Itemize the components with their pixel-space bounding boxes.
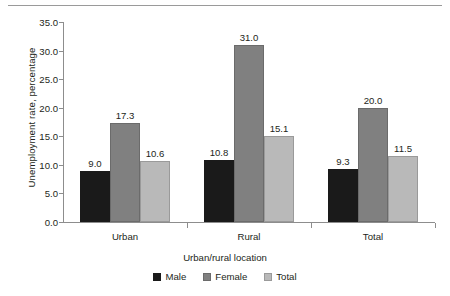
legend-swatch-icon — [264, 273, 272, 281]
bar-value-label: 11.5 — [394, 143, 412, 154]
legend-item-female[interactable]: Female — [203, 271, 247, 282]
legend-label: Total — [276, 271, 296, 282]
bar-urban-female — [110, 123, 140, 222]
top-divider-rule — [8, 5, 442, 6]
bar-value-label: 17.3 — [116, 110, 135, 121]
y-tick-label: 35.0 — [0, 17, 58, 28]
legend-label: Female — [215, 271, 247, 282]
bar-value-label: 20.0 — [364, 95, 383, 106]
y-tick-label: 10.0 — [0, 159, 58, 170]
bar-value-label: 10.6 — [146, 148, 165, 159]
bar-value-label: 9.3 — [336, 156, 349, 167]
y-tick-label: 0.0 — [0, 217, 58, 228]
bar-value-label: 15.1 — [270, 123, 289, 134]
y-tick-label: 20.0 — [0, 102, 58, 113]
y-tick-label: 5.0 — [0, 188, 58, 199]
bar-urban-male — [80, 171, 110, 222]
bar-total-total — [388, 156, 418, 222]
x-axis-line — [63, 222, 435, 223]
chart-legend: MaleFemaleTotal — [0, 271, 450, 282]
bar-rural-total — [264, 136, 294, 222]
x-category-label-total: Total — [363, 231, 383, 242]
x-tick-mark — [435, 223, 436, 228]
bar-rural-male — [204, 160, 234, 222]
bar-value-label: 10.8 — [210, 147, 229, 158]
y-tick-label: 15.0 — [0, 131, 58, 142]
legend-swatch-icon — [153, 273, 161, 281]
bar-value-label: 31.0 — [240, 32, 259, 43]
x-tick-mark — [311, 223, 312, 228]
bar-urban-total — [140, 161, 170, 222]
x-category-label-rural: Rural — [238, 231, 261, 242]
chart-figure: Unemployment rate, percentage 35.030.025… — [0, 0, 450, 296]
bar-rural-female — [234, 45, 264, 222]
y-tick-label: 30.0 — [0, 45, 58, 56]
legend-item-total[interactable]: Total — [264, 271, 296, 282]
x-category-label-urban: Urban — [112, 231, 138, 242]
x-axis-title: Urban/rural location — [0, 252, 450, 263]
bar-total-male — [328, 169, 358, 222]
y-tick-mark — [59, 222, 64, 223]
legend-item-male[interactable]: Male — [153, 271, 186, 282]
plot-area: 9.017.310.610.831.015.19.320.011.5 — [63, 22, 435, 222]
bar-total-female — [358, 108, 388, 222]
y-tick-label: 25.0 — [0, 74, 58, 85]
legend-label: Male — [165, 271, 186, 282]
bar-value-label: 9.0 — [88, 158, 101, 169]
legend-swatch-icon — [203, 273, 211, 281]
x-tick-mark — [187, 223, 188, 228]
